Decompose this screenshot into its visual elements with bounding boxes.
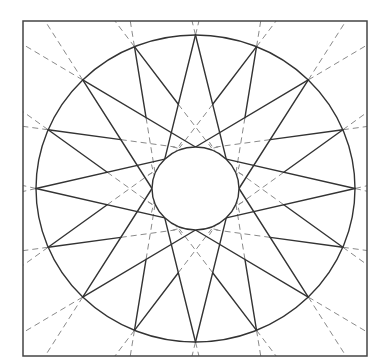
construction-line: [23, 44, 83, 79]
star-edge: [134, 47, 146, 118]
compass-svg: [0, 0, 377, 362]
construction-line: [178, 229, 211, 273]
construction-line: [308, 297, 367, 332]
construction-line: [216, 140, 270, 147]
star-edge: [83, 80, 152, 189]
construction-line: [257, 330, 261, 356]
star-edge: [36, 159, 165, 188]
construction-line: [179, 104, 212, 148]
construction-line: [45, 297, 83, 356]
star-edge: [165, 218, 196, 342]
construction-line: [45, 21, 83, 80]
construction-line: [355, 186, 367, 189]
star-edge: [213, 47, 257, 105]
compass-diagram: [0, 0, 377, 362]
star-edge: [83, 189, 152, 298]
star-edge: [245, 259, 257, 330]
star-edge: [196, 35, 227, 159]
star-edge: [245, 47, 257, 118]
construction-line: [355, 189, 367, 192]
star-edge: [196, 218, 227, 342]
construction-line: [257, 21, 261, 47]
construction-line: [308, 297, 346, 356]
star-edge: [226, 159, 355, 188]
star-edge: [134, 259, 146, 330]
star-edge: [239, 80, 308, 189]
star-edge: [239, 189, 308, 298]
star-edge: [226, 189, 355, 218]
construction-line: [121, 140, 175, 147]
construction-line: [23, 297, 83, 332]
construction-line: [178, 104, 211, 148]
star-edge: [134, 47, 178, 105]
construction-line: [23, 189, 36, 192]
construction-line: [196, 21, 199, 35]
construction-line: [192, 21, 195, 35]
construction-line: [216, 230, 270, 237]
construction-line: [121, 230, 175, 237]
construction-line: [130, 330, 134, 356]
star-edge: [134, 273, 178, 331]
star-edge: [213, 273, 257, 331]
construction-line: [130, 21, 134, 47]
star-edge: [165, 35, 196, 159]
construction-line: [308, 45, 367, 80]
construction-line: [179, 229, 212, 273]
star-edge: [36, 189, 165, 218]
construction-line: [257, 330, 277, 356]
construction-line: [23, 186, 36, 189]
construction-line: [196, 342, 199, 356]
construction-line: [192, 342, 195, 356]
construction-line: [308, 21, 346, 80]
construction-line: [115, 330, 135, 356]
inner-circle: [152, 147, 239, 230]
construction-line: [115, 21, 135, 47]
construction-line: [257, 21, 277, 47]
